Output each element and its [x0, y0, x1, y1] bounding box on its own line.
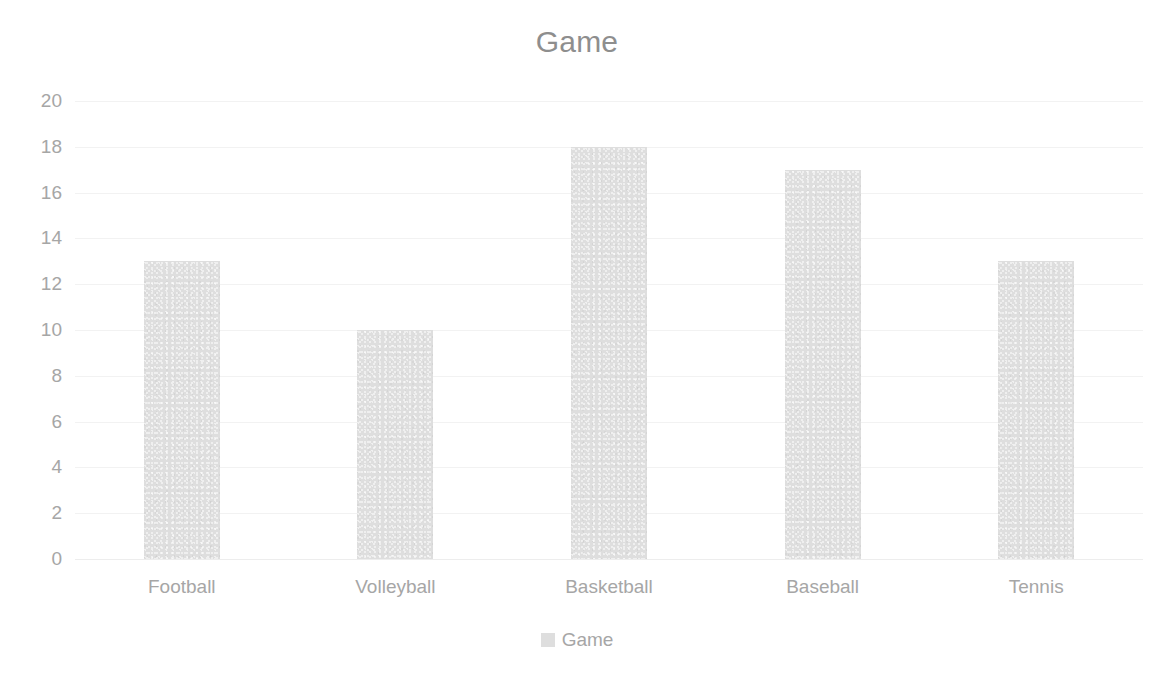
bar-slot — [785, 101, 861, 559]
y-tick-label: 4 — [0, 457, 62, 477]
y-tick-label: 20 — [0, 91, 62, 111]
chart-legend: Game — [0, 628, 1154, 652]
y-tick-label: 16 — [0, 183, 62, 203]
chart-title: Game — [0, 22, 1154, 62]
bar-baseball[interactable] — [785, 170, 861, 559]
gridline — [75, 559, 1143, 560]
y-tick-label: 14 — [0, 228, 62, 248]
y-tick-label: 2 — [0, 503, 62, 523]
bar-tennis[interactable] — [998, 261, 1074, 559]
bar-football[interactable] — [144, 261, 220, 559]
y-tick-label: 12 — [0, 274, 62, 294]
y-tick-label: 10 — [0, 320, 62, 340]
x-tick-label-football: Football — [75, 574, 289, 600]
y-tick-label: 18 — [0, 137, 62, 157]
y-tick-label: 0 — [0, 549, 62, 569]
y-tick-label: 6 — [0, 412, 62, 432]
bar-slot — [357, 101, 433, 559]
bar-slot — [998, 101, 1074, 559]
bar-basketball[interactable] — [571, 147, 647, 559]
x-tick-label-basketball: Basketball — [502, 574, 716, 600]
bar-slot — [144, 101, 220, 559]
bar-slot — [571, 101, 647, 559]
x-tick-label-volleyball: Volleyball — [289, 574, 503, 600]
y-axis: 20181614121086420 — [0, 0, 62, 679]
x-axis: FootballVolleyballBasketballBaseballTenn… — [75, 574, 1143, 602]
x-tick-label-tennis: Tennis — [929, 574, 1143, 600]
plot-area — [75, 101, 1143, 559]
legend-swatch-game — [541, 633, 555, 647]
x-tick-label-baseball: Baseball — [716, 574, 930, 600]
bar-volleyball[interactable] — [357, 330, 433, 559]
y-tick-label: 8 — [0, 366, 62, 386]
bar-chart: Game 20181614121086420 FootballVolleybal… — [0, 0, 1154, 679]
legend-label-game: Game — [562, 628, 614, 652]
